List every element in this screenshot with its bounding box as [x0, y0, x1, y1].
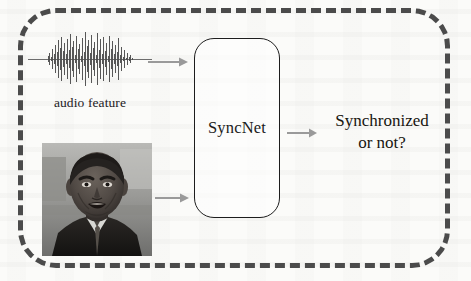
output-line-2: or not?: [318, 132, 446, 154]
arrow-right-icon: [155, 191, 189, 205]
audio-feature-label: audio feature: [28, 95, 152, 111]
syncnet-label: SyncNet: [194, 118, 280, 138]
output-line-1: Synchronized: [318, 110, 446, 132]
syncnet-pipeline-diagram: audio feature: [0, 0, 471, 281]
face-photo-icon: [42, 143, 152, 256]
output-question-text: Synchronized or not?: [318, 110, 446, 154]
audio-waveform-icon: [28, 28, 152, 90]
arrow-right-icon: [148, 55, 188, 69]
arrow-right-icon: [287, 126, 317, 140]
